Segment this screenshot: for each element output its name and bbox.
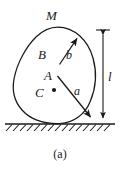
figure-caption: (a)	[0, 147, 120, 162]
label-dimension-l: l	[108, 70, 112, 83]
label-point-b: B	[38, 48, 46, 61]
center-dot	[52, 88, 56, 92]
ground-hatching	[6, 125, 110, 132]
label-point-a: A	[44, 69, 52, 82]
figure-container: M B b A C a l (a)	[0, 0, 120, 182]
label-point-m: M	[46, 9, 57, 22]
label-point-c: C	[35, 86, 44, 99]
label-vector-b: b	[66, 49, 72, 61]
body-outline	[13, 27, 95, 124]
label-vector-a: a	[74, 85, 80, 97]
